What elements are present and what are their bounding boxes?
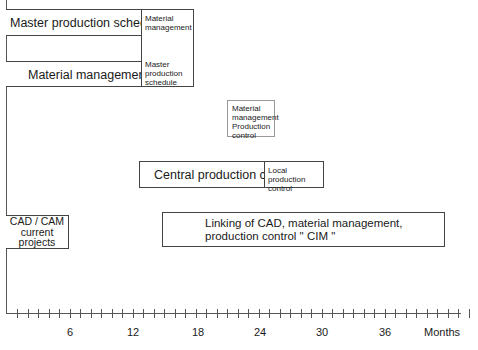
central-production-control-box: Central production control	[139, 161, 265, 188]
tick-mark	[364, 309, 365, 318]
tick-mark	[290, 309, 291, 318]
tick-mark	[280, 309, 281, 318]
tick-mark	[395, 309, 396, 318]
y-axis-line	[6, 0, 7, 314]
tick-mark	[164, 309, 165, 318]
tick-mark	[185, 309, 186, 318]
months-label: Months	[424, 326, 460, 338]
cim-label: Linking of CAD, material management, pro…	[205, 217, 405, 242]
tick-mark	[122, 309, 123, 318]
tick-mark	[17, 309, 18, 318]
tick-mark	[437, 309, 438, 318]
material-management-box: Material management	[6, 61, 142, 87]
tick-mark	[248, 309, 249, 318]
tick-mark	[49, 309, 50, 318]
tick-mark	[80, 309, 81, 318]
tick-mark	[269, 309, 270, 318]
tick-mark	[227, 309, 228, 318]
local-production-control-label: Local production control	[268, 166, 324, 193]
master-production-schedule-box: Master production schedule	[6, 9, 142, 36]
tick-mark	[259, 309, 260, 318]
tick-mark	[112, 309, 113, 318]
tick-mark	[28, 309, 29, 318]
tick-mark	[406, 309, 407, 318]
tick-mark	[217, 309, 218, 318]
tick-mark	[175, 309, 176, 318]
tick-mark	[385, 309, 386, 318]
tick-mark	[311, 309, 312, 318]
tick-mark	[469, 309, 470, 318]
tick-mark	[448, 309, 449, 318]
tick-label-6: 6	[67, 326, 73, 338]
tick-mark	[332, 309, 333, 318]
material-production-control-label: Material management Production control	[232, 104, 276, 140]
side-material-management-label: Material management	[145, 14, 193, 32]
tick-mark	[133, 309, 134, 318]
tick-mark	[458, 309, 459, 318]
material-management-label: Material management	[28, 68, 149, 82]
tick-mark	[374, 309, 375, 318]
tick-mark	[154, 309, 155, 318]
x-axis-line	[6, 313, 461, 314]
tick-mark	[91, 309, 92, 318]
tick-mark	[196, 309, 197, 318]
tick-mark	[238, 309, 239, 318]
tick-label-18: 18	[192, 326, 204, 338]
tick-mark	[343, 309, 344, 318]
tick-mark	[416, 309, 417, 318]
side-box: Material management Master production sc…	[141, 9, 194, 87]
tick-mark	[353, 309, 354, 318]
tick-mark	[70, 309, 71, 318]
tick-mark	[143, 309, 144, 318]
material-production-control-box: Material management Production control	[227, 100, 275, 137]
cad-cam-label: CAD / CAM current projects	[6, 216, 68, 248]
tick-mark	[206, 309, 207, 318]
tick-mark	[101, 309, 102, 318]
tick-mark	[38, 309, 39, 318]
tick-mark	[59, 309, 60, 318]
tick-label-24: 24	[254, 326, 266, 338]
cim-box: Linking of CAD, material management, pro…	[162, 212, 445, 247]
tick-label-30: 30	[316, 326, 328, 338]
tick-label-36: 36	[379, 326, 391, 338]
tick-mark	[427, 309, 428, 318]
tick-label-12: 12	[127, 326, 139, 338]
tick-mark	[301, 309, 302, 318]
local-production-control-box: Local production control	[264, 161, 324, 188]
side-master-production-schedule-label: Master production schedule	[145, 60, 193, 87]
tick-mark	[322, 309, 323, 318]
cad-cam-box: CAD / CAM current projects	[6, 215, 69, 249]
